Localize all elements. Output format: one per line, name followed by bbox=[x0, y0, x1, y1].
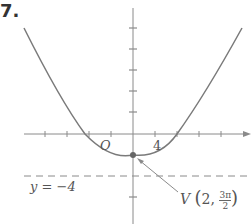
x-tick-label-4: 4 bbox=[153, 139, 161, 152]
vertex-point bbox=[130, 152, 136, 158]
origin-label: O bbox=[100, 139, 111, 152]
directrix-label: y = −4 bbox=[30, 180, 76, 193]
vertex-theta-numerator: 3π bbox=[219, 190, 231, 201]
vertex-label: V (2, 3π2) bbox=[180, 189, 238, 211]
vertex-theta-denominator: 2 bbox=[219, 201, 231, 211]
x-axis-arrow-icon bbox=[243, 131, 251, 137]
vertex-prefix: V bbox=[180, 191, 190, 207]
vertex-r: 2, bbox=[202, 191, 215, 207]
